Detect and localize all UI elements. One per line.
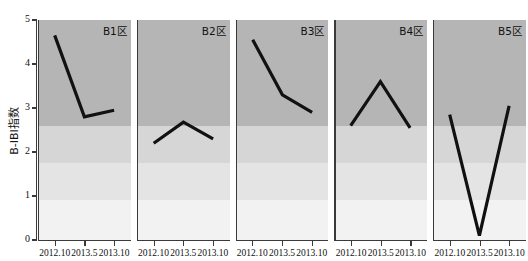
x-axis-tick-label: 2013.5 xyxy=(368,248,394,258)
y-axis-tick xyxy=(32,195,37,196)
x-axis-tick-label: 2013.10 xyxy=(296,248,327,258)
series-line-panel-4 xyxy=(334,20,427,240)
panel-left-axis-2 xyxy=(137,20,138,240)
y-axis-tick xyxy=(32,19,37,20)
panel-label-4: B4区 xyxy=(399,23,423,38)
series-line-panel-2 xyxy=(137,20,230,240)
y-axis-tick xyxy=(32,63,37,64)
x-axis-tick-label: 2012.10 xyxy=(434,248,465,258)
series-line-panel-5 xyxy=(433,20,526,240)
x-axis-tick xyxy=(509,241,510,246)
panel-left-axis-1 xyxy=(38,20,39,240)
panels-container: B1区B2区B3区B4区B5区 xyxy=(38,20,526,240)
x-axis-tick xyxy=(312,241,313,246)
y-axis-tick-label: 5 xyxy=(10,14,30,24)
x-axis-tick xyxy=(154,241,155,246)
y-axis-tick-labels: 012345 xyxy=(8,0,30,261)
panel-1: B1区 xyxy=(38,20,131,240)
panel-label-2: B2区 xyxy=(202,23,226,38)
multi-panel-line-chart: B-IBI指数 012345 B1区B2区B3区B4区B5区 2012.1020… xyxy=(0,0,528,261)
x-axis-tick-label: 2013.5 xyxy=(467,248,493,258)
x-axis-tick-label: 2012.10 xyxy=(237,248,268,258)
x-axis-tick xyxy=(480,241,481,246)
panel-left-axis-5 xyxy=(433,20,434,240)
series-line-panel-3 xyxy=(236,20,329,240)
y-axis-tick-label: 4 xyxy=(10,58,30,68)
x-axis-tick xyxy=(84,241,85,246)
panel-label-3: B3区 xyxy=(301,23,325,38)
y-axis-tick-label: 2 xyxy=(10,146,30,156)
x-axis-tick xyxy=(351,241,352,246)
x-axis-tick-label: 2013.10 xyxy=(197,248,228,258)
y-axis-tick xyxy=(32,151,37,152)
x-axis-tick xyxy=(114,241,115,246)
x-axis-tick-label: 2013.5 xyxy=(170,248,196,258)
x-axis-tick xyxy=(183,241,184,246)
x-axis-tick xyxy=(450,241,451,246)
panel-4: B4区 xyxy=(334,20,427,240)
x-axis-tick xyxy=(55,241,56,246)
panel-label-5: B5区 xyxy=(498,23,522,38)
x-axis-tick-label: 2012.10 xyxy=(336,248,367,258)
y-axis-tick-label: 0 xyxy=(10,234,30,244)
x-axis-tick xyxy=(410,241,411,246)
x-axis-tick-label: 2012.10 xyxy=(39,248,70,258)
panel-label-1: B1区 xyxy=(103,23,127,38)
x-axis-tick-label: 2013.5 xyxy=(71,248,97,258)
panel-2: B2区 xyxy=(137,20,230,240)
x-axis-tick-label: 2012.10 xyxy=(138,248,169,258)
x-axis-tick-label: 2013.10 xyxy=(395,248,426,258)
panel-left-axis-4 xyxy=(334,20,335,240)
panel-5: B5区 xyxy=(433,20,526,240)
x-axis-tick xyxy=(252,241,253,246)
y-axis-tick-label: 3 xyxy=(10,102,30,112)
x-axis-tick-label: 2013.10 xyxy=(99,248,130,258)
series-line-panel-1 xyxy=(38,20,131,240)
x-axis-tick xyxy=(213,241,214,246)
y-axis-tick-label: 1 xyxy=(10,190,30,200)
y-axis-tick xyxy=(32,107,37,108)
panel-3: B3区 xyxy=(236,20,329,240)
x-axis-tick-label: 2013.5 xyxy=(269,248,295,258)
y-axis-tick xyxy=(32,239,37,240)
panel-left-axis-3 xyxy=(236,20,237,240)
x-axis-tick xyxy=(282,241,283,246)
x-axis-tick xyxy=(381,241,382,246)
x-axis-tick-label: 2013.10 xyxy=(494,248,525,258)
